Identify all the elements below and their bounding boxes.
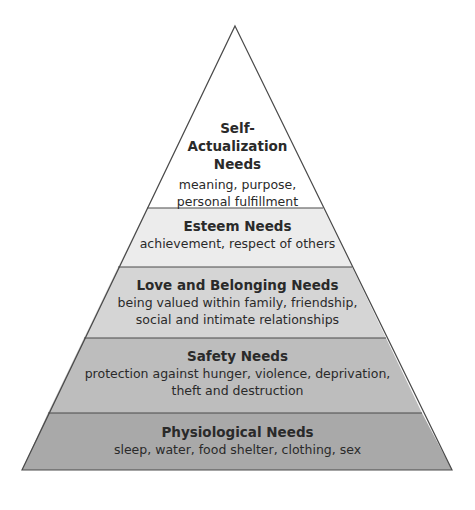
level-love-belonging: Love and Belonging Needs being valued wi… — [0, 276, 475, 328]
level-description: meaning, purpose, — [0, 176, 475, 193]
level-safety: Safety Needs protection against hunger, … — [0, 347, 475, 399]
level-self-actualization: Self- Actualization Needs meaning, purpo… — [0, 119, 475, 210]
level-description: personal fulfillment — [0, 193, 475, 210]
level-description: being valued within family, friendship, — [0, 294, 475, 311]
level-title: Esteem Needs — [0, 217, 475, 235]
level-title: Love and Belonging Needs — [0, 276, 475, 294]
level-title: Safety Needs — [0, 347, 475, 365]
level-description: sleep, water, food shelter, clothing, se… — [0, 441, 475, 458]
level-description: protection against hunger, violence, dep… — [0, 365, 475, 382]
level-description: theft and destruction — [0, 382, 475, 399]
level-description: social and intimate relationships — [0, 311, 475, 328]
level-esteem: Esteem Needs achievement, respect of oth… — [0, 217, 475, 252]
level-title: Self- — [0, 119, 475, 137]
level-physiological: Physiological Needs sleep, water, food s… — [0, 423, 475, 458]
level-title: Actualization — [0, 137, 475, 155]
level-title: Physiological Needs — [0, 423, 475, 441]
level-title: Needs — [0, 155, 475, 173]
level-description: achievement, respect of others — [0, 235, 475, 252]
